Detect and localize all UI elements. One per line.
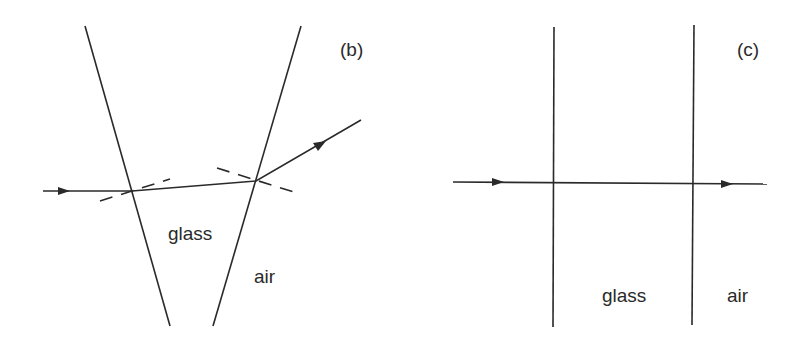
ray-arrow-out-icon	[721, 180, 733, 188]
prism-left-surface	[85, 26, 170, 326]
ray-arrow-out-icon	[313, 141, 326, 151]
panel-c: (c) glass air	[453, 25, 767, 327]
panel-tag-c: (c)	[737, 39, 759, 60]
refraction-diagram: (b) glass air (c) glass air	[0, 0, 806, 347]
label-glass-c: glass	[602, 285, 646, 306]
ray-arrow-in-icon	[492, 178, 504, 186]
slab-left-surface	[553, 27, 554, 327]
label-glass-b: glass	[168, 223, 212, 244]
slab-right-surface	[692, 25, 694, 325]
ray-arrow-in-icon	[58, 187, 70, 195]
panel-b: (b) glass air	[43, 26, 363, 326]
light-ray-b	[43, 120, 361, 191]
label-air-b: air	[254, 266, 276, 287]
label-air-c: air	[727, 285, 749, 306]
panel-tag-b: (b)	[340, 39, 363, 60]
